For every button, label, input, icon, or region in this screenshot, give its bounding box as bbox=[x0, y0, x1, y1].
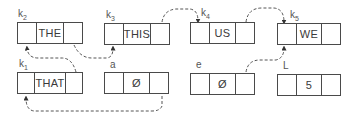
node-left-pointer bbox=[278, 24, 296, 44]
label-L: L bbox=[283, 60, 289, 71]
label-k3: k3 bbox=[106, 9, 115, 22]
node-left-pointer bbox=[278, 75, 296, 95]
label-e: e bbox=[196, 59, 202, 70]
node-right-pointer bbox=[322, 75, 340, 95]
node-left-pointer bbox=[191, 23, 209, 43]
arrow-k1-to-k2 bbox=[27, 48, 76, 72]
node-left-pointer bbox=[105, 24, 123, 44]
node-k2: THE bbox=[17, 22, 83, 44]
pointer-arrows bbox=[0, 0, 359, 121]
node-k3: THIS bbox=[104, 23, 170, 45]
node-right-pointer bbox=[64, 23, 82, 43]
node-value: Ø bbox=[209, 74, 236, 94]
node-k5: WE bbox=[277, 23, 341, 45]
node-k4: US bbox=[190, 22, 255, 44]
node-right-pointer bbox=[236, 23, 254, 43]
node-left-pointer bbox=[18, 23, 36, 43]
node-right-pointer bbox=[151, 24, 169, 44]
node-value: Ø bbox=[123, 73, 150, 93]
node-value: THIS bbox=[123, 24, 151, 44]
node-value: THAT bbox=[34, 73, 65, 93]
node-value: THE bbox=[36, 23, 64, 43]
node-right-pointer bbox=[322, 24, 340, 44]
label-k2: k2 bbox=[18, 8, 27, 21]
node-left-pointer bbox=[18, 73, 34, 93]
label-k5: k5 bbox=[290, 9, 299, 22]
arrow-a-to-k1 bbox=[26, 96, 162, 111]
label-k1: k1 bbox=[19, 58, 28, 71]
node-a: Ø bbox=[104, 72, 169, 94]
node-left-pointer bbox=[105, 73, 123, 93]
label-a: a bbox=[110, 59, 116, 70]
node-left-pointer bbox=[191, 74, 209, 94]
node-right-pointer bbox=[150, 73, 168, 93]
node-e: Ø bbox=[190, 73, 255, 95]
node-value: US bbox=[209, 23, 236, 43]
node-value: WE bbox=[296, 24, 322, 44]
node-L: 5 bbox=[277, 74, 341, 96]
node-k1: THAT bbox=[17, 72, 83, 94]
arrow-k3-to-k4 bbox=[162, 9, 198, 22]
label-k4: k4 bbox=[201, 7, 210, 20]
node-right-pointer bbox=[66, 73, 82, 93]
arrow-k2-to-k3 bbox=[74, 45, 113, 58]
arrow-k4-to-k5 bbox=[246, 8, 284, 22]
arrow-e-to-k5 bbox=[246, 48, 284, 72]
node-value: 5 bbox=[296, 75, 322, 95]
node-right-pointer bbox=[236, 74, 254, 94]
